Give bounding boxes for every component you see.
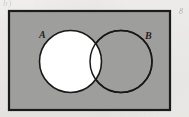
scan-artifact-top-right: 8 (179, 8, 183, 16)
venn-diagram-canvas (0, 0, 189, 117)
set-a-circle (40, 31, 102, 93)
scan-artifact-top-left: b) (3, 0, 13, 8)
set-a-label: A (39, 30, 46, 40)
set-b-label: B (145, 31, 152, 41)
venn-diagram-figure: A B b) 8 (0, 0, 189, 117)
